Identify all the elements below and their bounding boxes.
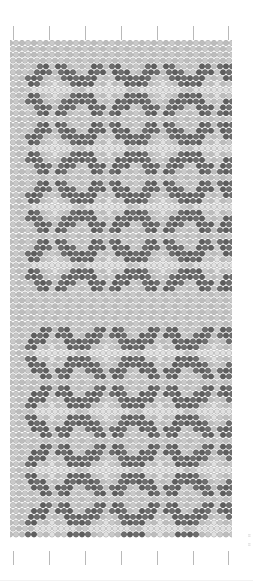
- tick-mark-2: [85, 551, 86, 565]
- tick-mark-5: [193, 26, 194, 40]
- tick-mark-3: [121, 551, 122, 565]
- tick-row-bottom: [0, 551, 253, 565]
- tick-mark-6: [228, 551, 229, 565]
- tick-mark-3: [121, 26, 122, 40]
- tick-mark-1: [49, 551, 50, 565]
- caption-line-2: ≡: [248, 541, 251, 547]
- tick-row-top: [0, 26, 253, 40]
- tick-mark-4: [157, 26, 158, 40]
- caption-line-1: ≡: [248, 532, 251, 538]
- bead-grid-canvas[interactable]: [10, 40, 232, 550]
- pattern-chart: ≡ ≡: [0, 0, 253, 581]
- tick-mark-6: [228, 26, 229, 40]
- tick-mark-5: [193, 551, 194, 565]
- tick-mark-0: [13, 551, 14, 565]
- tick-mark-1: [49, 26, 50, 40]
- tick-mark-0: [13, 26, 14, 40]
- tick-mark-2: [85, 26, 86, 40]
- tick-mark-4: [157, 551, 158, 565]
